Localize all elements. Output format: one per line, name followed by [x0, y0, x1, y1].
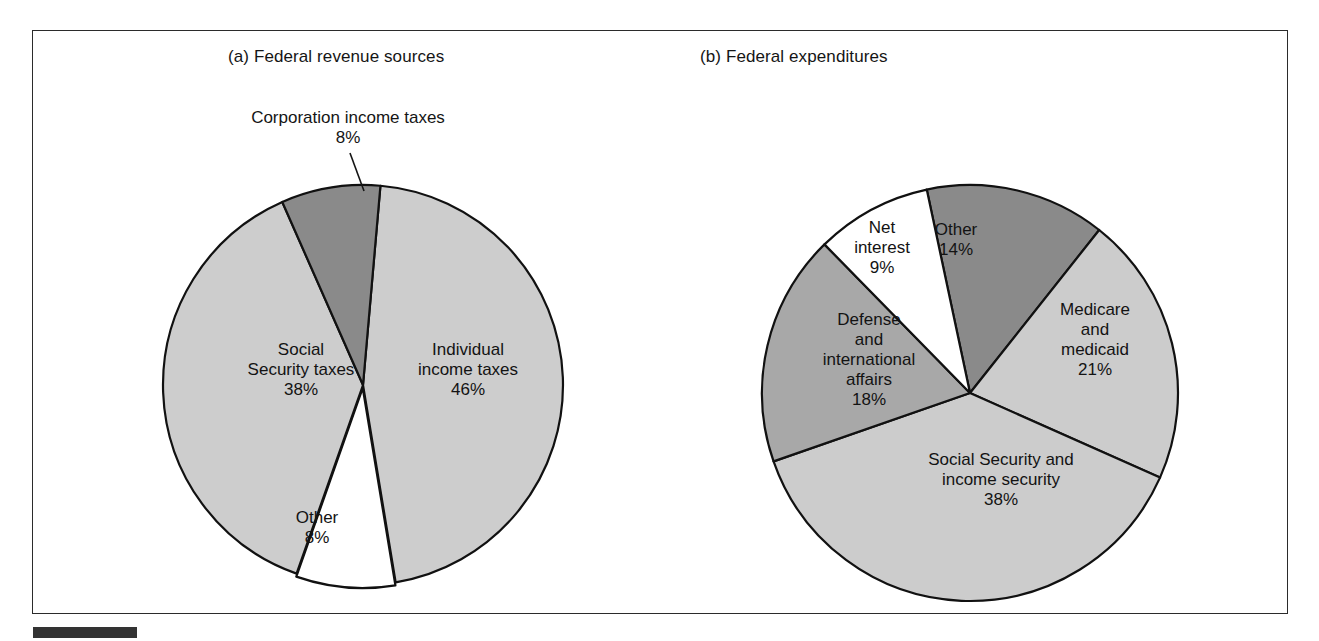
pie-chart-federal-expenditures	[0, 0, 1319, 641]
pie-b-slice-group	[762, 185, 1178, 601]
caption-bar	[33, 627, 137, 638]
figure-root: (a) Federal revenue sources (b) Federal …	[0, 0, 1319, 641]
